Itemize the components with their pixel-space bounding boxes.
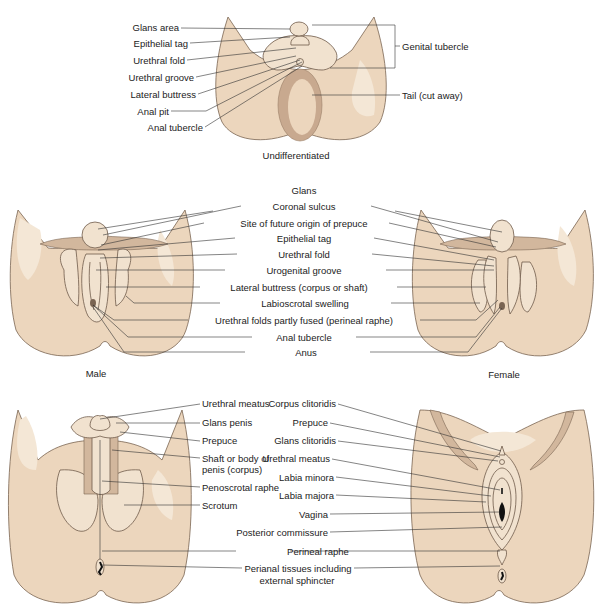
- label-prepuce-male: Prepuce: [202, 435, 237, 446]
- label-posterior-commissure: Posterior commissure: [236, 527, 328, 538]
- caption-male: Male: [86, 368, 107, 379]
- label-urethral-fold-mid: Urethral fold: [278, 249, 330, 260]
- undifferentiated-figure: [216, 17, 387, 141]
- label-lateral-buttress: Lateral buttress: [131, 89, 196, 100]
- caption-undifferentiated: Undifferentiated: [263, 150, 330, 161]
- label-glans: Glans: [292, 185, 317, 196]
- label-urethral-meatus-male: Urethral meatus: [202, 398, 270, 409]
- label-glans-clitoridis: Glans clitoridis: [274, 435, 336, 446]
- label-anal-tubercle: Anal tubercle: [148, 122, 203, 133]
- label-perianal-line2: external sphincter: [260, 575, 335, 586]
- label-corpus-clitoridis: Corpus clitoridis: [268, 398, 336, 409]
- label-future-prepuce: Site of future origin of prepuce: [240, 218, 367, 229]
- label-urogenital-groove: Urogenital groove: [267, 265, 342, 276]
- label-glans-area: Glans area: [133, 22, 179, 33]
- label-urethral-fold: Urethral fold: [133, 55, 185, 66]
- label-anal-pit: Anal pit: [137, 106, 169, 117]
- male-adult-figure: [8, 410, 191, 603]
- label-lateral-buttress-shaft: Lateral buttress (corpus or shaft): [230, 282, 367, 293]
- label-epithelial-tag: Epithelial tag: [134, 38, 188, 49]
- label-anus: Anus: [295, 347, 317, 358]
- label-tail-cut-away: Tail (cut away): [402, 90, 463, 101]
- male-fetus-figure: [10, 210, 193, 356]
- label-shaft-line1: Shaft or body of: [202, 453, 269, 464]
- label-prepuce-female: Prepuce: [293, 417, 328, 428]
- label-glans-penis: Glans penis: [202, 417, 252, 428]
- label-epithelial-tag-mid: Epithelial tag: [277, 233, 331, 244]
- label-labioscrotal-swelling: Labioscrotal swelling: [261, 298, 349, 309]
- label-perianal-line1: Perianal tissues including: [244, 563, 351, 574]
- label-scrotum: Scrotum: [202, 500, 237, 511]
- label-genital-tubercle: Genital tubercle: [402, 41, 469, 52]
- caption-female: Female: [488, 369, 520, 380]
- female-fetus-figure: [412, 210, 593, 356]
- label-shaft-line2: penis (corpus): [202, 464, 262, 475]
- label-urethral-groove: Urethral groove: [129, 72, 194, 83]
- label-vagina: Vagina: [299, 509, 328, 520]
- label-coronal-sulcus: Coronal sulcus: [273, 201, 336, 212]
- label-perineal-raphe: Perineal raphe: [287, 546, 349, 557]
- female-adult-figure: [411, 410, 594, 603]
- label-labia-majora: Labia majora: [279, 490, 334, 501]
- label-labia-minora: Labia minora: [279, 472, 334, 483]
- label-penoscrotal-raphe: Penoscrotal raphe: [202, 482, 279, 493]
- label-anal-tubercle-mid: Anal tubercle: [276, 332, 331, 343]
- label-urethral-folds-fused: Urethral folds partly fused (perineal ra…: [215, 315, 393, 326]
- label-urethral-meatus-female: Urethral meatus: [262, 453, 330, 464]
